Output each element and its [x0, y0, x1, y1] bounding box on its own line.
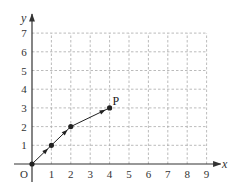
- path-segment: [51, 127, 70, 146]
- point-p-label: P: [113, 94, 120, 108]
- y-tick-label: 6: [21, 46, 27, 58]
- path-segment: [32, 145, 51, 164]
- coordinate-plane: 1234567891234567 x y O P: [0, 0, 241, 187]
- x-tick-label: 3: [87, 168, 93, 180]
- y-tick-label: 2: [21, 121, 27, 133]
- y-tick-label: 7: [21, 27, 27, 39]
- path-point: [29, 161, 34, 166]
- y-tick-label: 1: [21, 139, 27, 151]
- path-point: [68, 124, 73, 129]
- x-tick-label: 7: [165, 168, 171, 180]
- direction-arrow-icon: [99, 110, 105, 115]
- x-tick-label: 8: [184, 168, 190, 180]
- x-tick-label: 6: [146, 168, 152, 180]
- x-tick-label: 2: [68, 168, 74, 180]
- grid: [32, 33, 207, 164]
- y-tick-label: 5: [21, 65, 27, 77]
- x-tick-label: 4: [107, 168, 113, 180]
- y-axis-label: y: [20, 11, 27, 25]
- y-tick-label: 3: [21, 102, 27, 114]
- x-axis-label: x: [221, 157, 228, 171]
- origin-label: O: [20, 168, 28, 180]
- x-tick-label: 5: [126, 168, 132, 180]
- x-tick-label: 1: [49, 168, 55, 180]
- x-tick-label: 9: [204, 168, 210, 180]
- y-tick-label: 4: [21, 83, 27, 95]
- path-point: [49, 143, 54, 148]
- path-point: [107, 105, 112, 110]
